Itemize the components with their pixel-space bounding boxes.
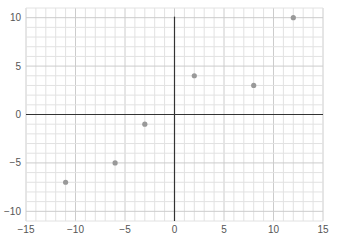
y-tick-label: −5 [10,157,22,168]
x-tick-label: 10 [268,224,280,235]
y-tick-label: 0 [15,109,21,120]
x-tick-labels: −15−10−5051015 [18,224,329,235]
data-point [251,83,256,88]
y-tick-label: 10 [10,12,22,23]
x-tick-label: −5 [119,224,131,235]
x-tick-label: 15 [317,224,329,235]
x-tick-label: −15 [18,224,35,235]
data-point [113,160,118,165]
x-tick-label: 0 [172,224,178,235]
axes [26,17,323,221]
data-point [291,15,296,20]
data-point [63,180,68,185]
data-points [63,15,296,185]
y-tick-labels: −10−50510 [4,12,21,217]
data-point [142,122,147,127]
data-point [192,73,197,78]
y-tick-label: −10 [4,206,21,217]
scatter-chart: −15−10−5051015 −10−50510 [0,0,339,240]
y-tick-label: 5 [15,61,21,72]
x-tick-label: −10 [67,224,84,235]
x-tick-label: 5 [221,224,227,235]
